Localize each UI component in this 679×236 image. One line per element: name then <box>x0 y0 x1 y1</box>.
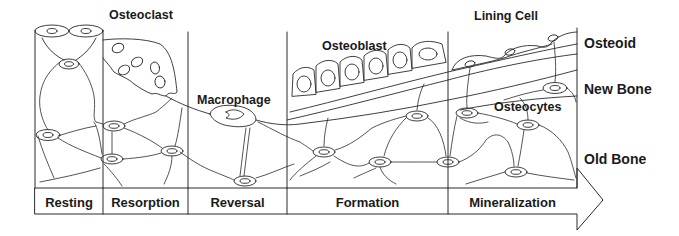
label-lining-cell: Lining Cell <box>474 10 538 23</box>
label-osteoblast: Osteoblast <box>322 40 387 53</box>
phase-formation: Formation <box>287 196 448 209</box>
osteoclast-cell <box>103 39 210 114</box>
phase-mineralization: Mineralization <box>448 196 577 209</box>
canaliculi-network <box>38 42 576 186</box>
phase-resorption: Resorption <box>103 196 188 209</box>
resting-lining-cells <box>35 25 103 60</box>
label-osteocytes: Osteocytes <box>494 101 561 114</box>
phase-resting: Resting <box>35 196 103 209</box>
label-osteoclast: Osteoclast <box>109 9 173 22</box>
label-new-bone: New Bone <box>584 82 652 96</box>
phase-reversal: Reversal <box>188 196 287 209</box>
label-osteoid: Osteoid <box>584 36 636 50</box>
macrophage-cell <box>210 105 256 126</box>
label-old-bone: Old Bone <box>584 152 646 166</box>
label-macrophage: Macrophage <box>197 94 271 107</box>
bone-remodeling-diagram: Osteoclast Macrophage Osteoblast Lining … <box>0 0 679 236</box>
